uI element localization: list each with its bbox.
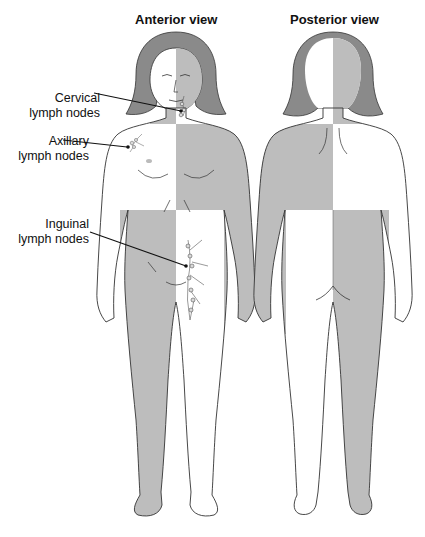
body-diagram [0, 0, 425, 537]
anterior-figure [63, 32, 266, 530]
posterior-figure [250, 32, 412, 530]
